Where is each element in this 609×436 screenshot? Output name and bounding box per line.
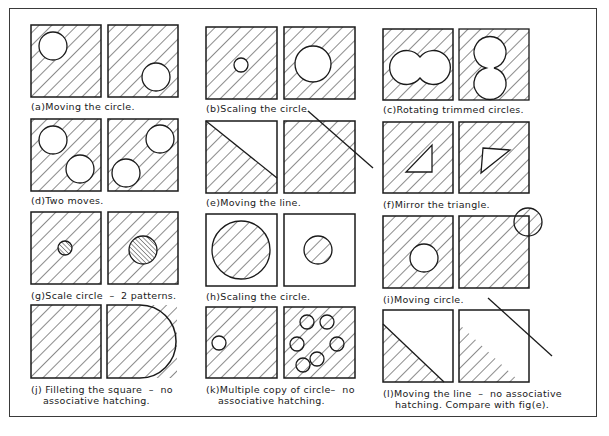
caption-a: (a)Moving the circle. <box>31 101 135 112</box>
caption-i: (i)Moving circle. <box>383 294 464 305</box>
caption-f: (f)Mirror the triangle. <box>383 199 490 210</box>
caption-k: (k)Multiple copy of circle– noassociativ… <box>206 384 355 406</box>
caption-e: (e)Moving the line. <box>206 197 301 208</box>
caption-d: (d)Two moves. <box>31 195 104 206</box>
figure-frame <box>9 8 597 417</box>
caption-c: (c)Rotating trimmed circles. <box>383 104 524 115</box>
caption-g: (g)Scale circle – 2 patterns. <box>31 290 176 301</box>
caption-b: (b)Scaling the circle. <box>206 103 310 114</box>
caption-j: (j) Filleting the square – noassociative… <box>31 384 173 406</box>
caption-l: (l)Moving the line – no associativehatch… <box>383 388 562 410</box>
caption-h: (h)Scaling the circle. <box>206 291 310 302</box>
